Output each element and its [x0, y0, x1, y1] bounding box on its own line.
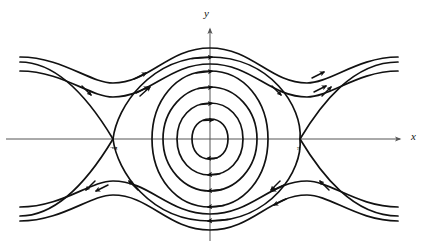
flow-arrow-orbit1-top: [203, 120, 213, 121]
separatrix-upper-right-outgoing: [300, 62, 398, 139]
rotation-lower-outer: [20, 195, 398, 230]
rotation-lower-inner: [20, 181, 398, 214]
flow-arrow-orbit1-bottom: [207, 158, 217, 159]
separatrix-upper-left-incoming: [20, 62, 113, 139]
right-saddle-label: π: [297, 145, 301, 152]
separatrix-lower-right-incoming: [300, 139, 398, 216]
phase-portrait-figure: x y −π π: [0, 0, 422, 246]
flow-arrow-rotation-upper-outer-right: [312, 72, 324, 78]
flow-arrow-orbit2-bottom: [208, 174, 220, 175]
flow-arrow-rotation-upper-outer-left: [134, 73, 146, 79]
left-saddle-label: −π: [110, 145, 117, 152]
flow-arrow-rotation-lower-inner-left: [96, 185, 108, 191]
separatrix-lower-left-outgoing: [20, 139, 113, 216]
y-axis-label: y: [204, 8, 209, 19]
x-axis-label: x: [411, 131, 416, 142]
axes-group: [6, 29, 400, 241]
flow-arrow-rotation-upper-inner-right: [314, 86, 326, 92]
rotation-upper-outer: [20, 48, 398, 83]
flow-arrow-rotation-lower-outer-right: [274, 199, 286, 205]
phase-portrait-canvas: [0, 0, 422, 246]
rotation-upper-inner: [20, 64, 398, 97]
